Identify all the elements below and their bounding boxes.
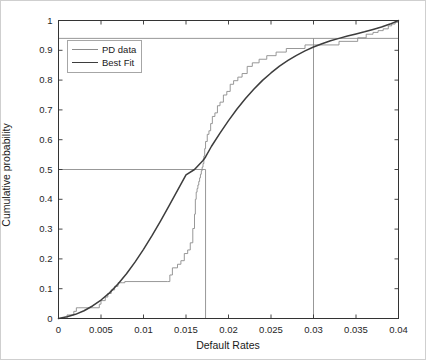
y-tick-label-7: 0.7 <box>0 105 53 115</box>
x-tick-label-4: 0.02 <box>219 325 238 335</box>
x-tick-label-8: 0.04 <box>389 325 408 335</box>
x-tick-label-1: 0.005 <box>89 325 113 335</box>
y-tick-label-8: 0.8 <box>0 75 53 85</box>
y-tick-label-3: 0.3 <box>0 224 53 234</box>
y-tick-label-6: 0.6 <box>0 135 53 145</box>
x-tick-label-7: 0.035 <box>344 325 368 335</box>
legend-swatch-best-fit <box>72 62 98 63</box>
figure-canvas: Default Rates Cumulative probability PD … <box>0 0 426 360</box>
plot-area <box>0 0 426 360</box>
y-tick-label-0: 0 <box>0 314 53 324</box>
legend-label-best-fit: Best Fit <box>102 58 134 68</box>
legend-swatch-pd-data <box>72 49 98 50</box>
legend-label-pd-data: PD data <box>102 45 136 55</box>
y-tick-label-1: 0.1 <box>0 284 53 294</box>
x-tick-label-0: 0 <box>56 325 61 335</box>
y-tick-label-9: 0.9 <box>0 46 53 56</box>
legend-entry-best-fit: Best Fit <box>72 56 136 69</box>
legend-box: PD data Best Fit <box>67 40 142 73</box>
x-tick-label-5: 0.025 <box>259 325 283 335</box>
y-tick-label-4: 0.4 <box>0 195 53 205</box>
x-tick-label-2: 0.01 <box>134 325 153 335</box>
y-tick-label-2: 0.2 <box>0 254 53 264</box>
x-tick-label-6: 0.03 <box>304 325 323 335</box>
y-tick-label-5: 0.5 <box>0 165 53 175</box>
x-axis-label: Default Rates <box>196 339 260 351</box>
legend-entry-pd-data: PD data <box>72 43 136 56</box>
y-tick-label-10: 1 <box>0 16 53 26</box>
x-tick-label-3: 0.015 <box>174 325 198 335</box>
